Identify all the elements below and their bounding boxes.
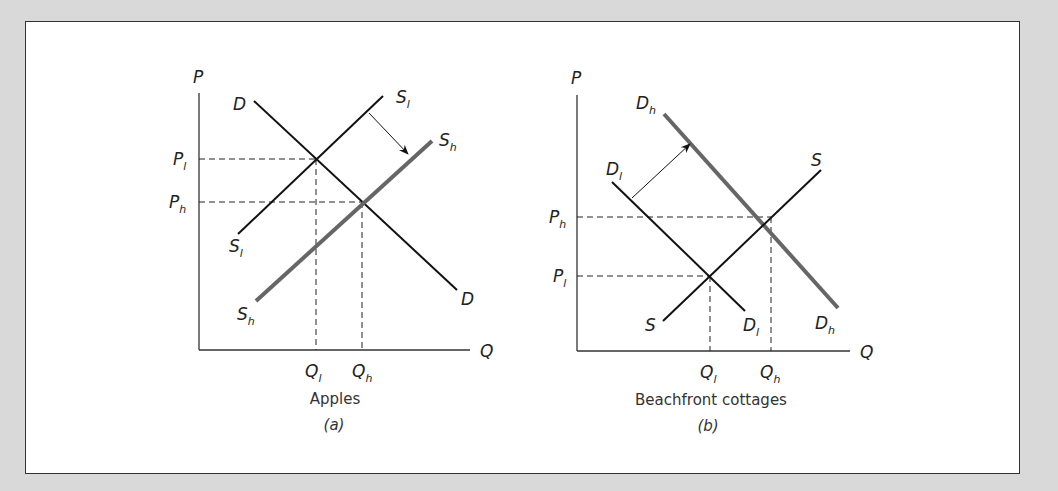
panel-b-dl-bottom-label: Dl (743, 315, 759, 339)
panel-b-shift-arrow (632, 144, 690, 198)
panel-b-supply-curve (663, 170, 821, 321)
panel-a-ql-label: Ql (305, 361, 321, 385)
panel-b-s-bottom-label: S (645, 315, 656, 335)
panel-a-apples: P Q D D Sl Sl Sh Sh Pl Ph Ql Qh Apples (… (169, 67, 493, 434)
panel-a-p-axis-label: P (193, 67, 204, 87)
panel-a-sh-top-label: Sh (439, 130, 457, 154)
panel-a-panel-label: (a) (324, 416, 345, 434)
panel-a-shift-arrow (369, 113, 408, 154)
panel-b-qh-label: Qh (760, 362, 780, 386)
panel-b-demand-low-curve (612, 182, 745, 311)
supply-demand-figure: P Q D D Sl Sl Sh Sh Pl Ph Ql Qh Apples (… (0, 0, 1058, 491)
panel-a-d-bottom-label: D (461, 289, 474, 309)
panel-b-s-top-label: S (811, 150, 822, 170)
panel-a-sh-bottom-label: Sh (237, 304, 255, 328)
panel-b-caption: Beachfront cottages (635, 391, 787, 409)
panel-b-dh-top-label: Dh (636, 93, 656, 117)
panel-a-sl-bottom-label: Sl (229, 236, 243, 260)
panel-a-guides (199, 159, 362, 350)
panel-a-supply-low-curve (238, 96, 383, 234)
panel-a-d-top-label: D (233, 94, 246, 114)
panel-b-dl-top-label: Dl (606, 159, 622, 183)
panel-b-ph-label: Ph (549, 207, 566, 231)
panel-b-ql-label: Ql (700, 362, 716, 386)
panel-b-guides (577, 217, 771, 351)
panel-a-qh-label: Qh (352, 361, 372, 385)
panel-a-sl-top-label: Sl (396, 87, 410, 111)
panel-b-beachfront-cottages: P Q Dh Dh Dl Dl S S Ph Pl Ql Qh Beachfro… (549, 68, 873, 435)
panel-a-pl-label: Pl (173, 149, 186, 173)
panel-a-q-axis-label: Q (480, 341, 493, 361)
panel-b-demand-high-curve (664, 114, 838, 308)
panel-b-dh-bottom-label: Dh (815, 313, 835, 337)
panel-b-panel-label: (b) (697, 417, 718, 435)
panel-a-ph-label: Ph (169, 192, 186, 216)
panel-a-demand-curve (254, 101, 457, 290)
panel-a-caption: Apples (310, 390, 361, 408)
panel-b-p-axis-label: P (571, 68, 582, 88)
panel-b-q-axis-label: Q (860, 342, 873, 362)
panel-b-pl-label: Pl (553, 266, 566, 290)
panel-a-supply-high-curve (256, 141, 432, 301)
